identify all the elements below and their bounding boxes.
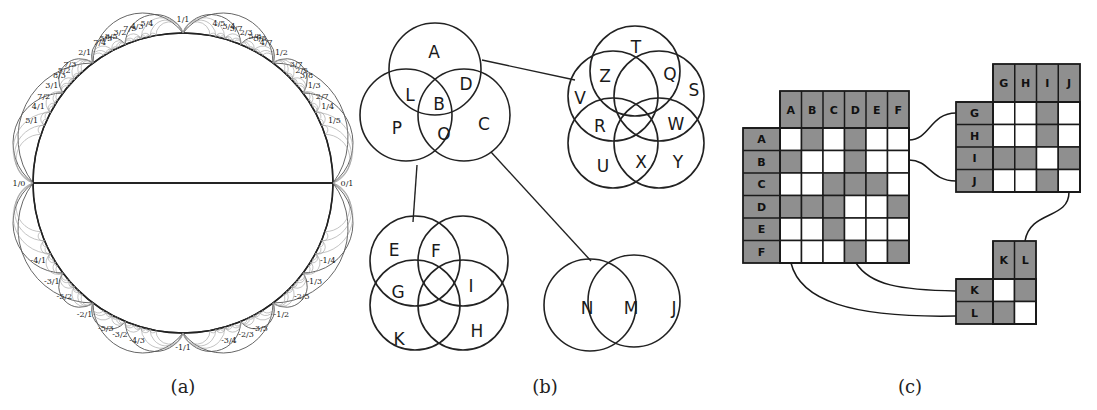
venn-label: E bbox=[389, 240, 400, 260]
matrix-cell-empty bbox=[823, 151, 845, 174]
matrix-cell-filled bbox=[802, 196, 824, 219]
farey-label: 7/3 bbox=[63, 60, 76, 69]
farey-label: 5/1 bbox=[25, 116, 38, 125]
matrix-cell-empty bbox=[993, 125, 1015, 148]
farey-label: -2/5 bbox=[294, 292, 310, 301]
geodesic bbox=[183, 183, 333, 333]
matrix-cell-empty bbox=[888, 173, 910, 196]
geodesic bbox=[78, 60, 93, 74]
venn-label: O bbox=[437, 124, 450, 144]
row-header: L bbox=[971, 307, 978, 320]
farey-label: 1/0 bbox=[13, 179, 26, 188]
column-header: F bbox=[894, 104, 902, 117]
figure-canvas: 1/05/14/17/23/18/35/27/32/17/45/38/53/27… bbox=[0, 0, 1097, 410]
venn-label: S bbox=[689, 80, 700, 100]
venn-label: J bbox=[670, 298, 676, 318]
matrix-cell-empty bbox=[993, 170, 1015, 193]
matrix-cell-empty bbox=[823, 241, 845, 264]
venn-label: Q bbox=[663, 64, 676, 84]
matrix-cell-empty bbox=[780, 128, 802, 151]
matrix-cell-empty bbox=[802, 151, 824, 174]
farey-label: 3/8 bbox=[300, 71, 313, 80]
venn-label: F bbox=[431, 241, 441, 261]
matrix-cell-filled bbox=[888, 196, 910, 219]
farey-label: -1/4 bbox=[320, 256, 336, 265]
matrix-cell-empty bbox=[1015, 125, 1037, 148]
matrix-cell-empty bbox=[993, 102, 1015, 125]
group-link bbox=[482, 60, 575, 80]
farey-label: 5/4 bbox=[141, 19, 154, 28]
farey-label: -1/1 bbox=[175, 343, 191, 352]
venn-label: C bbox=[478, 114, 490, 134]
farey-label: -4/1 bbox=[31, 256, 47, 265]
matrix-cell-empty bbox=[866, 218, 888, 241]
venn-label: G bbox=[391, 282, 404, 302]
geodesic bbox=[273, 61, 285, 72]
venn-label: Y bbox=[672, 152, 684, 172]
column-header: A bbox=[786, 104, 795, 117]
matrix-connector bbox=[909, 113, 956, 140]
venn-label: R bbox=[594, 116, 606, 136]
column-header: L bbox=[1022, 254, 1029, 267]
matrix-cell-filled bbox=[823, 173, 845, 196]
venn-label: M bbox=[624, 298, 639, 318]
panel-a-farey-diagram: 1/05/14/17/23/18/35/27/32/17/45/38/53/27… bbox=[13, 13, 354, 353]
matrix-cell-filled bbox=[823, 218, 845, 241]
matrix-cell-empty bbox=[845, 196, 867, 219]
matrix-cell-empty bbox=[1058, 125, 1080, 148]
venn-label: X bbox=[635, 152, 647, 172]
row-header: B bbox=[757, 156, 765, 169]
group-link bbox=[413, 165, 417, 222]
matrix-cell-empty bbox=[780, 173, 802, 196]
venn-circle bbox=[418, 216, 508, 306]
matrix-cell-filled bbox=[993, 302, 1015, 325]
row-header: A bbox=[757, 133, 766, 146]
figure: 1/05/14/17/23/18/35/27/32/17/45/38/53/27… bbox=[0, 0, 1097, 410]
geodesic bbox=[273, 286, 294, 306]
row-header: E bbox=[758, 223, 766, 236]
geodesic bbox=[273, 292, 288, 306]
geodesic bbox=[33, 33, 183, 183]
matrix-cell-empty bbox=[823, 128, 845, 151]
geodesic bbox=[33, 183, 183, 333]
farey-label: -3/2 bbox=[112, 330, 128, 339]
panel-c-matrices: AABBCCDDEEFFGGHHIIJJKKLL bbox=[743, 64, 1080, 324]
matrix-cell-filled bbox=[888, 241, 910, 264]
row-header: K bbox=[970, 284, 979, 297]
column-header: I bbox=[1045, 77, 1049, 90]
matrix-cell-filled bbox=[1037, 125, 1059, 148]
column-header: B bbox=[808, 104, 816, 117]
column-header: C bbox=[830, 104, 838, 117]
matrix-cell-empty bbox=[888, 218, 910, 241]
venn-label: N bbox=[581, 298, 594, 318]
venn-label: B bbox=[433, 94, 445, 114]
farey-label: 3/1 bbox=[45, 81, 58, 90]
farey-label: 4/7 bbox=[260, 38, 273, 47]
matrix-m1: AABBCCDDEEFF bbox=[743, 91, 909, 263]
row-header: C bbox=[757, 178, 765, 191]
matrix-cell-empty bbox=[866, 151, 888, 174]
geodesic bbox=[78, 292, 93, 306]
venn-label: A bbox=[428, 42, 440, 62]
matrix-cell-filled bbox=[1015, 279, 1037, 302]
geodesic bbox=[183, 33, 333, 183]
matrix-cell-empty bbox=[802, 173, 824, 196]
matrix-m3: KKLL bbox=[956, 241, 1036, 324]
matrix-cell-filled bbox=[823, 196, 845, 219]
farey-label: 0/1 bbox=[341, 179, 354, 188]
matrix-cell-filled bbox=[780, 151, 802, 174]
matrix-m2: GGHHIIJJ bbox=[956, 64, 1080, 192]
matrix-cell-filled bbox=[780, 196, 802, 219]
row-header: J bbox=[971, 175, 976, 188]
farey-label: 4/1 bbox=[32, 102, 45, 111]
venn-label: I bbox=[468, 276, 473, 296]
matrix-cell-filled bbox=[1015, 147, 1037, 170]
farey-label: 1/4 bbox=[321, 102, 334, 111]
farey-label: 7/2 bbox=[37, 92, 50, 101]
matrix-cell-empty bbox=[1058, 102, 1080, 125]
matrix-cell-filled bbox=[1037, 102, 1059, 125]
venn-circle bbox=[370, 260, 460, 350]
farey-label: 1/3 bbox=[308, 81, 321, 90]
matrix-cell-empty bbox=[780, 241, 802, 264]
matrix-cell-empty bbox=[1058, 170, 1080, 193]
